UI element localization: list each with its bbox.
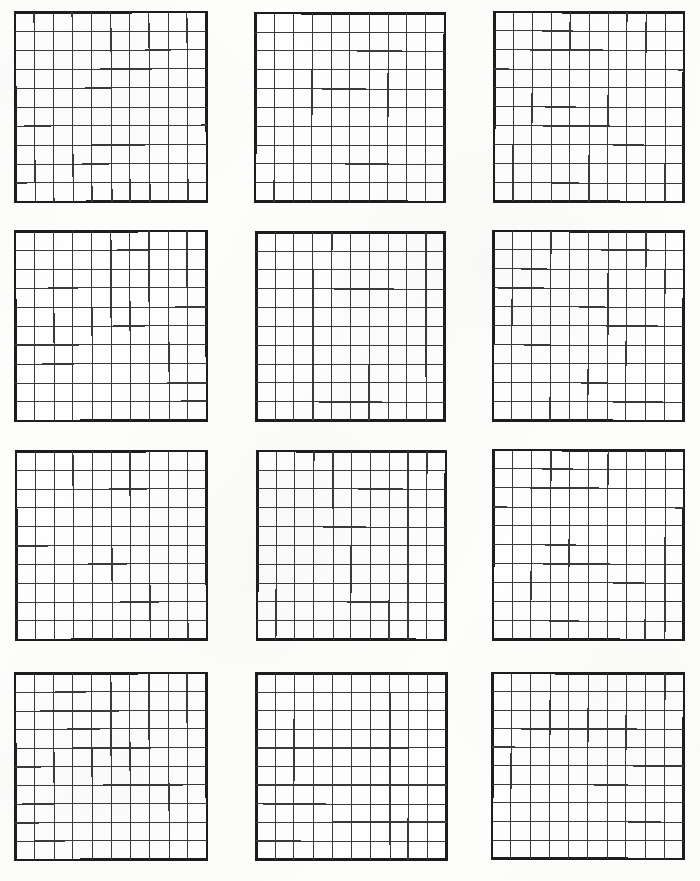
grid-cell[interactable] bbox=[408, 508, 427, 527]
grid-cell[interactable] bbox=[428, 748, 447, 767]
grid-cell[interactable] bbox=[53, 729, 72, 748]
grid-cell[interactable] bbox=[532, 250, 551, 269]
grid-cell[interactable] bbox=[169, 364, 188, 383]
grid-cell[interactable] bbox=[390, 729, 409, 748]
grid-cell[interactable] bbox=[350, 402, 369, 421]
grid-cell[interactable] bbox=[569, 784, 588, 803]
grid-cell[interactable] bbox=[627, 307, 646, 326]
grid-cell[interactable] bbox=[645, 766, 664, 785]
grid-cell[interactable] bbox=[130, 345, 149, 364]
grid-cell[interactable] bbox=[551, 288, 570, 307]
grid-cell[interactable] bbox=[314, 583, 333, 602]
grid-cell[interactable] bbox=[607, 364, 626, 383]
grid-cell[interactable] bbox=[34, 307, 53, 326]
grid-cell[interactable] bbox=[256, 748, 275, 767]
grid-cell[interactable] bbox=[187, 31, 206, 50]
grid-cell[interactable] bbox=[550, 507, 569, 526]
grid-cell[interactable] bbox=[513, 250, 532, 269]
grid-cell[interactable] bbox=[188, 766, 207, 785]
grid-cell[interactable] bbox=[531, 307, 550, 326]
grid-cell[interactable] bbox=[53, 231, 72, 250]
grid-cell[interactable] bbox=[645, 183, 664, 202]
grid-cell[interactable] bbox=[513, 145, 532, 164]
grid-cell[interactable] bbox=[313, 270, 332, 289]
grid-cell[interactable] bbox=[92, 804, 111, 823]
grid-cell[interactable] bbox=[531, 673, 550, 692]
grid-cell[interactable] bbox=[112, 602, 131, 621]
grid-cell[interactable] bbox=[256, 729, 275, 748]
grid-cell[interactable] bbox=[257, 602, 276, 621]
grid-cell[interactable] bbox=[608, 288, 627, 307]
grid-cell[interactable] bbox=[16, 451, 35, 470]
hundredths-grid[interactable] bbox=[14, 672, 209, 862]
grid-cell[interactable] bbox=[607, 402, 626, 421]
grid-cell[interactable] bbox=[313, 251, 332, 270]
grid-cell[interactable] bbox=[369, 289, 388, 308]
grid-cell[interactable] bbox=[627, 50, 646, 69]
grid-cell[interactable] bbox=[275, 326, 294, 345]
grid-cell[interactable] bbox=[314, 489, 333, 508]
grid-cell[interactable] bbox=[550, 345, 569, 364]
grid-cell[interactable] bbox=[607, 710, 626, 729]
grid-cell[interactable] bbox=[352, 527, 371, 546]
grid-cell[interactable] bbox=[35, 841, 54, 860]
grid-cell[interactable] bbox=[188, 841, 207, 860]
grid-cell[interactable] bbox=[15, 107, 34, 126]
grid-cell[interactable] bbox=[351, 232, 370, 251]
grid-cell[interactable] bbox=[188, 345, 207, 364]
grid-cell[interactable] bbox=[371, 673, 390, 692]
grid-cell[interactable] bbox=[390, 673, 409, 692]
grid-cell[interactable] bbox=[350, 108, 369, 127]
grid-cell[interactable] bbox=[92, 326, 111, 345]
grid-cell[interactable] bbox=[408, 451, 427, 470]
grid-cell[interactable] bbox=[333, 673, 352, 692]
grid-cell[interactable] bbox=[168, 12, 187, 31]
grid-cell[interactable] bbox=[187, 692, 206, 711]
grid-cell[interactable] bbox=[332, 729, 351, 748]
grid-cell[interactable] bbox=[16, 621, 35, 640]
grid-cell[interactable] bbox=[427, 470, 446, 489]
grid-cell[interactable] bbox=[426, 32, 445, 51]
grid-cell[interactable] bbox=[54, 748, 73, 767]
grid-cell[interactable] bbox=[15, 288, 34, 307]
grid-cell[interactable] bbox=[111, 508, 130, 527]
grid-cell[interactable] bbox=[531, 364, 550, 383]
grid-cell[interactable] bbox=[389, 621, 408, 640]
grid-cell[interactable] bbox=[627, 126, 646, 145]
grid-cell[interactable] bbox=[313, 711, 332, 730]
grid-cell[interactable] bbox=[256, 402, 275, 421]
grid-cell[interactable] bbox=[188, 326, 207, 345]
grid-cell[interactable] bbox=[665, 564, 684, 583]
grid-cell[interactable] bbox=[53, 31, 72, 50]
grid-cell[interactable] bbox=[332, 232, 351, 251]
grid-cell[interactable] bbox=[73, 383, 92, 402]
grid-cell[interactable] bbox=[511, 784, 530, 803]
grid-cell[interactable] bbox=[350, 51, 369, 70]
grid-cell[interactable] bbox=[54, 164, 73, 183]
grid-cell[interactable] bbox=[188, 545, 207, 564]
grid-cell[interactable] bbox=[665, 251, 684, 270]
grid-cell[interactable] bbox=[92, 489, 111, 508]
grid-cell[interactable] bbox=[111, 673, 130, 692]
grid-cell[interactable] bbox=[607, 583, 626, 602]
grid-cell[interactable] bbox=[646, 526, 665, 545]
grid-cell[interactable] bbox=[35, 183, 54, 202]
grid-cell[interactable] bbox=[256, 270, 275, 289]
grid-cell[interactable] bbox=[369, 108, 388, 127]
grid-cell[interactable] bbox=[530, 803, 549, 822]
grid-cell[interactable] bbox=[92, 345, 111, 364]
grid-cell[interactable] bbox=[588, 822, 607, 841]
grid-cell[interactable] bbox=[16, 546, 35, 565]
grid-cell[interactable] bbox=[646, 164, 665, 183]
grid-cell[interactable] bbox=[550, 822, 569, 841]
grid-cell[interactable] bbox=[493, 288, 512, 307]
grid-cell[interactable] bbox=[626, 621, 645, 640]
grid-cell[interactable] bbox=[130, 12, 149, 31]
hundredths-grid[interactable] bbox=[256, 450, 447, 641]
grid-cell[interactable] bbox=[370, 451, 389, 470]
grid-cell[interactable] bbox=[149, 766, 168, 785]
grid-cell[interactable] bbox=[149, 692, 168, 711]
grid-cell[interactable] bbox=[313, 402, 332, 421]
grid-cell[interactable] bbox=[92, 527, 111, 546]
grid-cell[interactable] bbox=[569, 766, 588, 785]
